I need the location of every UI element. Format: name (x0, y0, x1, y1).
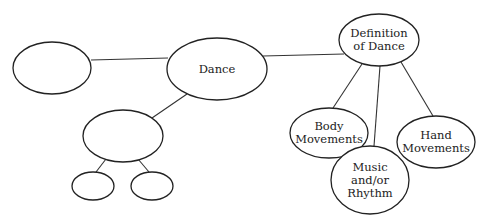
node-small-left-empty (72, 172, 114, 200)
edge-left-empty-to-dance (91, 58, 168, 60)
dance-label: Dance (199, 63, 236, 76)
node-label-hand: Hand Movements (402, 129, 470, 155)
body-label-line2: Movements (295, 133, 363, 146)
definition-label-line2: of Dance (350, 40, 407, 53)
concept-map-canvas (0, 0, 486, 220)
edge-dance-to-lower-empty (152, 94, 187, 118)
node-small-right-empty (131, 172, 173, 200)
node-label-music: Music and/or Rhythm (347, 161, 393, 200)
edge-lower-empty-to-small-left-empty (96, 159, 106, 172)
edge-dance-to-definition (263, 54, 344, 56)
node-left-empty (13, 42, 91, 94)
node-label-definition: Definition of Dance (350, 27, 407, 53)
hand-label-line2: Movements (402, 142, 470, 155)
node-label-dance: Dance (199, 63, 236, 76)
edge-definition-to-music (374, 66, 380, 146)
music-label-line3: Rhythm (347, 187, 393, 200)
edge-lower-empty-to-small-right-empty (138, 159, 149, 172)
node-label-body: Body Movements (295, 120, 363, 146)
concept-map: Dance Definition of Dance Body Movements… (0, 0, 486, 220)
edge-definition-to-hand (401, 62, 433, 116)
edge-definition-to-body (333, 64, 362, 108)
node-lower-empty (83, 110, 163, 162)
